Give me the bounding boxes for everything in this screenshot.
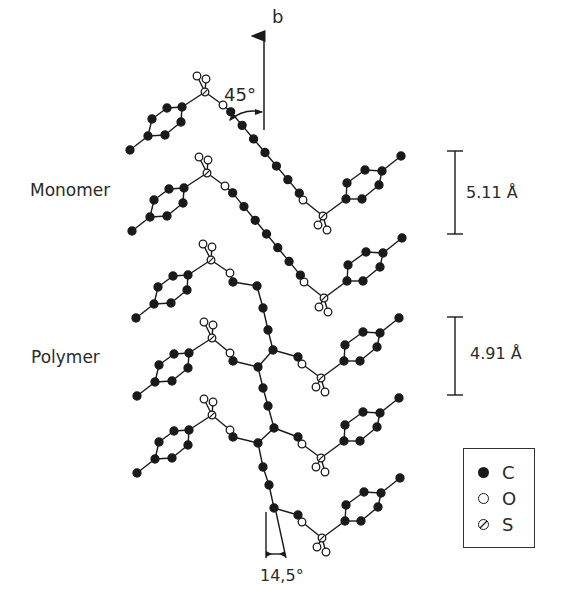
carbon-atom (265, 481, 273, 489)
carbon-atom (259, 463, 267, 471)
carbon-atom (342, 195, 350, 203)
carbon-atom (229, 278, 237, 286)
carbon-atom (377, 489, 385, 497)
carbon-atom (177, 118, 185, 126)
carbon-atom (132, 314, 140, 322)
carbon-atom (251, 216, 259, 224)
carbon-atom (270, 424, 278, 432)
carbon-atom (378, 167, 386, 175)
oxygen-atom (209, 321, 217, 329)
carbon-atom (180, 184, 188, 192)
carbon-atom (148, 115, 156, 123)
carbon-atom (340, 437, 348, 445)
carbon-atom (229, 433, 237, 441)
carbon-atom (294, 353, 302, 361)
carbon-atom (264, 326, 272, 334)
carbon-atom (379, 249, 387, 257)
carbon-atom (161, 131, 169, 139)
carbon-atom (254, 363, 262, 371)
carbon-atom (356, 357, 364, 365)
carbon-atom (253, 282, 261, 290)
angle-indicator-14-5 (266, 512, 286, 558)
carbon-atom (359, 277, 367, 285)
oxygen-atom (226, 349, 234, 357)
hatched-circle-icon (478, 519, 489, 530)
carbon-atom (398, 234, 406, 242)
oxygen-atom (313, 543, 321, 551)
carbon-atom (357, 517, 365, 525)
carbon-atom (274, 244, 282, 252)
carbon-atom (165, 185, 173, 193)
oxygen-atom (199, 240, 207, 248)
carbon-atom (295, 189, 303, 197)
oxygen-atom (312, 463, 320, 471)
carbon-atom (168, 377, 176, 385)
carbon-atom (155, 361, 163, 369)
carbon-atom (240, 203, 248, 211)
carbon-atom (294, 433, 302, 441)
carbon-atom (359, 328, 367, 336)
polymer-label: Polymer (31, 347, 100, 367)
oxygen-atom (323, 226, 331, 234)
carbon-atom (126, 146, 134, 154)
carbon-atom (285, 257, 293, 265)
axis-label-b: b (272, 6, 283, 27)
carbon-atom (168, 454, 176, 462)
carbon-atom (144, 132, 152, 140)
carbon-atom (184, 441, 192, 449)
carbon-atom (341, 421, 349, 429)
carbon-atom (376, 409, 384, 417)
carbon-atom (361, 166, 369, 174)
carbon-atom (238, 121, 246, 129)
carbon-atom (343, 277, 351, 285)
carbon-atom (374, 503, 382, 511)
carbon-atom (376, 329, 384, 337)
oxygen-atom (314, 221, 322, 229)
carbon-atom (343, 179, 351, 187)
oxygen-atom (315, 303, 323, 311)
carbon-atom (373, 343, 381, 351)
carbon-atom (229, 189, 237, 197)
carbon-atom (397, 152, 405, 160)
carbon-atom (178, 103, 186, 111)
oxygen-atom (226, 269, 234, 277)
carbon-atom (396, 474, 404, 482)
carbon-atom (376, 263, 384, 271)
carbon-atom (356, 437, 364, 445)
legend-item-oxygen: O (464, 487, 534, 511)
legend-item-sulfur: S (464, 513, 534, 537)
carbon-atom (360, 488, 368, 496)
oxygen-atom (195, 153, 203, 161)
carbon-atom (342, 501, 350, 509)
carbon-atom (163, 212, 171, 220)
angle-label-45: 45° (224, 84, 256, 105)
carbon-atom (155, 438, 163, 446)
carbon-atom (133, 392, 141, 400)
oxygen-atom (221, 182, 229, 190)
carbon-atom (170, 350, 178, 358)
carbon-atom (150, 300, 158, 308)
distance-label-polymer: 4.91 Å (470, 344, 522, 363)
atom-legend: C O S (463, 448, 535, 548)
carbon-atom (294, 511, 302, 519)
carbon-atom (151, 455, 159, 463)
carbon-atom (169, 272, 177, 280)
carbon-atom (284, 176, 292, 184)
oxygen-atom (202, 75, 210, 83)
carbon-atom (150, 196, 158, 204)
carbon-atom (270, 504, 278, 512)
carbon-atom (296, 271, 304, 279)
carbon-atom (259, 384, 267, 392)
angle-label-14-5: 14,5° (260, 566, 304, 585)
scale-bars (447, 151, 463, 395)
open-circle-icon (478, 493, 489, 504)
oxygen-atom (193, 72, 201, 80)
carbon-atom (272, 162, 280, 170)
carbon-atom (184, 364, 192, 372)
carbon-atom (269, 346, 277, 354)
oxygen-atom (200, 318, 208, 326)
carbon-atom (254, 439, 262, 447)
oxygen-atom (321, 468, 329, 476)
oxygen-atom (322, 548, 330, 556)
carbon-atom (128, 227, 136, 235)
